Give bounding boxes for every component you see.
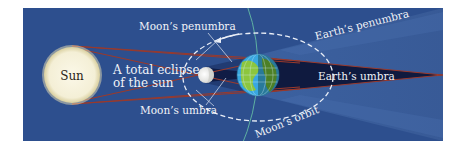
diagram-canvas: Sun A total eclipse of the sun Moon’s pe… — [0, 0, 465, 154]
eclipse-title-line2: of the sun — [113, 76, 174, 90]
moon-penumbra-label: Moon’s penumbra — [139, 20, 236, 32]
moon — [198, 67, 214, 83]
eclipse-diagram: Sun A total eclipse of the sun Moon’s pe… — [0, 0, 465, 154]
moon-umbra-label: Moon’s umbra — [140, 104, 217, 116]
earth-umbra-label: Earth’s umbra — [318, 70, 395, 82]
eclipse-title-line1: A total eclipse — [112, 63, 200, 77]
sun-label: Sun — [60, 69, 84, 83]
